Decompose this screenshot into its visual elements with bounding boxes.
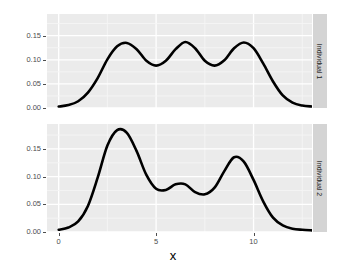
facet-panel-individual-1	[47, 14, 312, 108]
x-tick-label: 0	[44, 238, 74, 246]
x-tick-mark	[254, 233, 255, 236]
density-plot-figure: Individual 1 Individual 2 0.000.050.100.…	[0, 0, 346, 270]
facet-strip-individual-2: Individual 2	[313, 124, 327, 232]
y-tick-mark	[43, 108, 46, 109]
panel-1-canvas	[47, 14, 312, 108]
y-tick-mark	[43, 204, 46, 205]
y-tick-label: 0.10	[1, 56, 41, 64]
y-tick-mark	[43, 232, 46, 233]
facet-strip-individual-1: Individual 1	[313, 14, 327, 108]
y-tick-label: 0.05	[1, 80, 41, 88]
y-tick-mark	[43, 60, 46, 61]
y-tick-label: 0.10	[1, 173, 41, 181]
y-tick-mark	[43, 36, 46, 37]
y-tick-label: 0.05	[1, 200, 41, 208]
x-tick-label: 5	[141, 238, 171, 246]
x-tick-mark	[59, 233, 60, 236]
facet-strip-label-2: Individual 2	[317, 160, 324, 195]
facet-strip-label-1: Individual 1	[317, 43, 324, 78]
x-tick-mark	[156, 233, 157, 236]
y-tick-mark	[43, 149, 46, 150]
panel-2-canvas	[47, 124, 312, 232]
density-curve-individual-2	[59, 129, 312, 230]
y-tick-mark	[43, 84, 46, 85]
y-tick-label: 0.00	[1, 228, 41, 236]
y-tick-label: 0.00	[1, 104, 41, 112]
y-tick-label: 0.15	[1, 32, 41, 40]
facet-panel-individual-2	[47, 124, 312, 232]
y-tick-label: 0.15	[1, 145, 41, 153]
x-axis-title: x	[0, 248, 346, 263]
x-tick-label: 10	[239, 238, 269, 246]
y-tick-mark	[43, 177, 46, 178]
density-curve-individual-1	[59, 42, 312, 107]
